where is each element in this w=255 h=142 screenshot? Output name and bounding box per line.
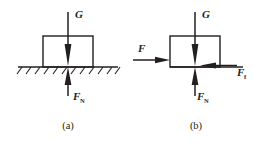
free-body-diagram-svg: G F N (a): [0, 0, 255, 142]
friction-force-label-b: F f: [236, 66, 247, 80]
normal-force-arrow-a: [65, 67, 72, 96]
applied-force-label-b: F: [137, 42, 146, 54]
weight-label-a: G: [75, 8, 83, 20]
figure-container: G F N (a): [0, 0, 255, 142]
applied-force-arrow-b: [133, 57, 170, 63]
weight-label-b: G: [202, 8, 210, 20]
friction-force-label-b-sub: f: [244, 73, 247, 80]
weight-arrow-b: [192, 12, 199, 66]
weight-arrow-a: [65, 12, 72, 66]
panel-a: G F N (a): [17, 8, 120, 132]
panel-caption-a: (a): [62, 120, 74, 132]
normal-force-label-b-sub: N: [204, 97, 209, 104]
panel-b: G F F f F N (b): [133, 8, 247, 132]
normal-force-label-b: F N: [196, 90, 209, 104]
normal-force-label-a: F N: [72, 90, 85, 104]
normal-force-label-a-sub: N: [80, 97, 85, 104]
panel-caption-b: (b): [190, 120, 203, 132]
